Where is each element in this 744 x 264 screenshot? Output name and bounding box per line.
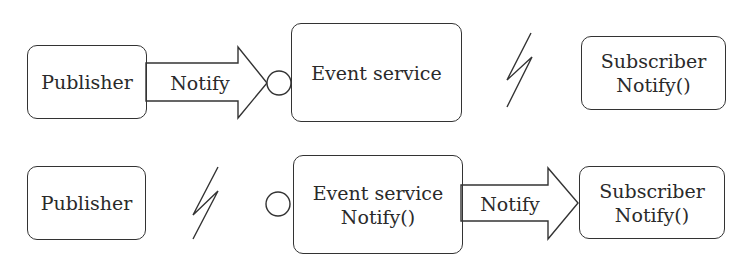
publisher-box-row2: Publisher — [27, 166, 146, 240]
subscriber-method: Notify() — [615, 203, 689, 227]
subscriber-box-row2: Subscriber Notify() — [579, 166, 725, 239]
subscriber-label: Subscriber — [601, 49, 706, 73]
subscriber-method: Notify() — [616, 73, 690, 97]
interface-port-row1 — [267, 71, 291, 95]
publisher-label: Publisher — [41, 70, 133, 94]
notify-arrow-label-row2: Notify — [472, 192, 548, 216]
event-service-box-row1: Event service — [291, 23, 462, 122]
publisher-label: Publisher — [41, 191, 133, 215]
publisher-box-row1: Publisher — [27, 45, 147, 119]
event-service-method: Notify() — [341, 205, 415, 229]
subscriber-label: Subscriber — [599, 179, 704, 203]
subscriber-box-row1: Subscriber Notify() — [581, 36, 726, 110]
event-service-label: Event service — [311, 61, 442, 85]
notify-arrow-label-row1: Notify — [162, 71, 238, 95]
broken-link-icon-row2 — [193, 167, 218, 239]
broken-link-icon-row1 — [507, 33, 532, 107]
event-service-box-row2: Event service Notify() — [293, 155, 463, 254]
event-service-label: Event service — [313, 181, 444, 205]
interface-port-row2 — [266, 192, 290, 216]
